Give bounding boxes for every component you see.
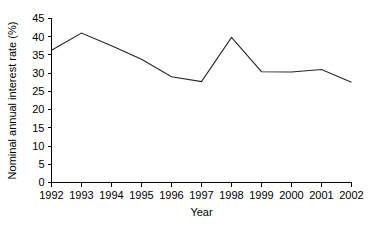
y-tick-label: 35 [32,49,44,61]
y-axis-title: Nominal annual interest rate (%) [6,22,18,180]
x-tick-label: 1994 [99,189,123,201]
y-tick-label: 20 [32,103,44,115]
x-tick-label: 1997 [189,189,213,201]
data-series-line [52,33,352,82]
y-tick-label: 5 [38,158,44,170]
x-tick-label: 1999 [249,189,273,201]
x-tick-label: 1993 [69,189,93,201]
x-tick-label: 2002 [339,189,363,201]
line-chart: 0510152025303540451992199319941995199619… [0,0,378,234]
y-tick-label: 45 [32,12,44,24]
y-tick-label: 30 [32,67,44,79]
y-tick-label: 0 [38,176,44,188]
y-tick-label: 40 [32,31,44,43]
x-tick-label: 2001 [309,189,333,201]
x-tick-label: 1998 [219,189,243,201]
y-tick-label: 15 [32,122,44,134]
x-tick-label: 2000 [279,189,303,201]
chart-canvas: 0510152025303540451992199319941995199619… [0,0,378,234]
y-tick-label: 25 [32,85,44,97]
x-tick-label: 1996 [159,189,183,201]
y-tick-label: 10 [32,140,44,152]
x-axis-title: Year [190,206,213,218]
x-tick-label: 1995 [129,189,153,201]
x-tick-label: 1992 [39,189,63,201]
